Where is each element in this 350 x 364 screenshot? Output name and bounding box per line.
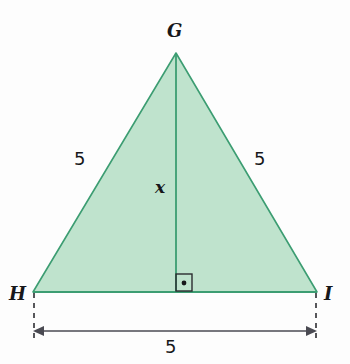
triangle-diagram-canvas — [0, 0, 350, 364]
vertex-label-i: I — [324, 285, 332, 303]
side-length-label-left: 5 — [74, 150, 85, 168]
altitude-label-x: x — [155, 179, 165, 196]
geometry-figure: G H I 5 5 x 5 — [0, 0, 350, 364]
vertex-label-h: H — [9, 285, 26, 303]
base-dimension-label: 5 — [165, 338, 176, 356]
side-length-label-right: 5 — [254, 150, 265, 168]
triangle-ghi — [33, 53, 317, 292]
vertex-label-g: G — [167, 22, 182, 40]
right-angle-dot-icon — [182, 281, 187, 286]
